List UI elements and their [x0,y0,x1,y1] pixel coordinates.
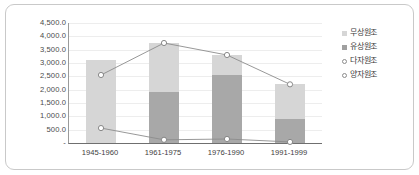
chart-legend: 무상원조 유상원조 다자원조 양자원조 [338,26,410,82]
marker-yangja[interactable] [224,52,229,57]
y-axis-tick-label: - [14,139,66,147]
line-daja [101,128,290,142]
y-axis-tick-label: 1,000.0 [14,112,66,120]
y-axis-tick-label: 4,500.0 [14,19,66,27]
legend-item-yusangwonjo[interactable]: 유상원조 [338,40,410,54]
legend-swatch-circle-open-icon [338,59,350,64]
lines-layer [69,23,322,143]
chart-card: 4,500.0 4,000.0 3,500.0 3,000.0 2,500.0 … [5,4,414,170]
x-axis-tick-labels: 1945-1960 1961-1975 1976-1990 1991-1999 [68,148,321,162]
y-axis-tick-label: 2,500.0 [14,72,66,80]
x-axis-tick-label: 1961-1975 [131,148,195,158]
marker-daja[interactable] [287,139,292,144]
marker-daja[interactable] [224,136,229,141]
line-yangja [101,43,290,84]
legend-label: 양자원조 [350,70,377,80]
y-axis-tick-label: 4,000.0 [14,32,66,40]
y-axis-tick-labels: 4,500.0 4,000.0 3,500.0 3,000.0 2,500.0 … [14,19,66,145]
y-axis-tick-label: 500.0 [14,126,66,134]
y-axis-tick-label: 1,500.0 [14,99,66,107]
marker-daja[interactable] [98,125,103,130]
screenshot-root: 4,500.0 4,000.0 3,500.0 3,000.0 2,500.0 … [0,0,419,175]
y-axis-tick-label: 2,000.0 [14,86,66,94]
legend-label: 무상원조 [350,28,377,38]
legend-label: 다자원조 [350,56,377,66]
x-axis-tick-label: 1976-1990 [194,148,258,158]
x-axis-tick-label: 1945-1960 [68,148,132,158]
legend-item-musangwonjo[interactable]: 무상원조 [338,26,410,40]
marker-yangja[interactable] [161,40,166,45]
chart-plot-wrapper: 4,500.0 4,000.0 3,500.0 3,000.0 2,500.0 … [6,5,415,171]
legend-item-yangjawonjo[interactable]: 양자원조 [338,68,410,82]
marker-yangja[interactable] [287,82,292,87]
marker-daja[interactable] [161,137,166,142]
x-axis-tick-label: 1991-1999 [257,148,321,158]
marker-yangja[interactable] [98,72,103,77]
plot-area [68,23,322,144]
y-axis-tick-label: 3,500.0 [14,46,66,54]
legend-item-dajawonjo[interactable]: 다자원조 [338,54,410,68]
line-series-svg [69,23,322,143]
legend-swatch-square-dark-icon [338,45,350,50]
legend-label: 유상원조 [350,42,377,52]
legend-swatch-square-light-icon [338,31,350,36]
legend-swatch-circle-open-icon [338,73,350,78]
y-axis-tick-label: 3,000.0 [14,59,66,67]
